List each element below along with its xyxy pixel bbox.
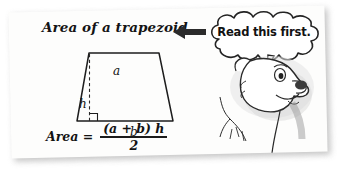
right-angle-marker-icon [90,114,98,122]
bear-svg [206,51,326,155]
screenshot-canvas: Area of a trapezoid a b h Area = [0,0,338,171]
left-arrow-icon [173,24,207,40]
trapezoid-svg [55,37,185,125]
formula-fraction: (a + b) h 2 [100,122,167,152]
bear-head-icon [206,51,326,155]
card-content: Area of a trapezoid a b h Area = [10,9,326,155]
trapezoid-outline [77,53,173,121]
trapezoid-diagram: a b h [55,37,185,125]
lesson-title: Area of a trapezoid [42,19,188,35]
scanned-lesson-card: Area of a trapezoid a b h Area = [8,6,327,159]
formula-label: Area = [46,129,93,144]
area-formula: Area = (a + b) h 2 [46,122,167,152]
fraction-denominator: 2 [129,138,138,152]
bear-sketch-stroke-1 [220,97,230,119]
fraction-numerator: (a + b) h [100,122,167,136]
bear-pupil [279,73,284,79]
bear-sketch-stroke-2 [220,119,230,137]
bear-nose [295,81,307,90]
side-label-a: a [113,64,120,78]
height-label-h: h [79,97,87,111]
arrow-shape [173,25,206,39]
left-arrow-svg [173,24,207,40]
speech-bubble-text: Read this first. [214,25,314,39]
